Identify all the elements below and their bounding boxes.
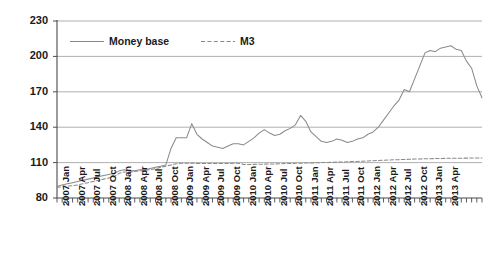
- x-axis-tick-label: 2007 Jul: [92, 169, 102, 207]
- y-axis-tick-label: 80: [12, 192, 48, 203]
- line-chart: 801101401702002302007 Jan2007 Apr2007 Ju…: [0, 0, 494, 268]
- x-axis-tick-label: 2011 Jul: [341, 169, 351, 206]
- x-axis-tick-label: 2009 Jan: [185, 166, 195, 206]
- x-axis-tick-label: 2010 Jan: [248, 166, 258, 206]
- y-axis-tick-label: 200: [12, 50, 48, 61]
- x-axis-tick-label: 2007 Oct: [108, 166, 118, 206]
- x-axis-tick-label: 2008 Apr: [139, 166, 149, 206]
- chart-legend: Money baseM3: [70, 36, 255, 47]
- x-axis-tick-label: 2013 Apr: [450, 166, 460, 206]
- x-axis-tick-label: 2010 Oct: [294, 166, 304, 206]
- y-axis-tick-label: 110: [12, 157, 48, 168]
- legend-swatch-solid: [70, 38, 104, 45]
- x-axis-tick-label: 2011 Oct: [356, 167, 366, 206]
- x-axis-tick-label: 2008 Jan: [123, 166, 133, 206]
- legend-label: Money base: [109, 36, 169, 47]
- x-axis-tick-label: 2010 Apr: [263, 166, 273, 206]
- x-axis-tick-label: 2009 Apr: [201, 166, 211, 206]
- x-axis-tick-label: 2010 Jul: [279, 169, 289, 207]
- legend-entry-m3: M3: [201, 36, 255, 47]
- y-axis-tick-label: 140: [12, 121, 48, 132]
- x-axis-tick-label: 2008 Jul: [154, 169, 164, 207]
- x-axis-tick-label: 2007 Jan: [61, 166, 71, 206]
- y-axis-tick-label: 230: [12, 15, 48, 26]
- y-axis-tick-label: 170: [12, 86, 48, 97]
- x-axis-tick-label: 2013 Jan: [434, 166, 444, 206]
- x-axis-tick-label: 2009 Jul: [216, 169, 226, 207]
- legend-entry-money-base: Money base: [70, 36, 169, 47]
- x-axis-tick-label: 2012 Oct: [419, 166, 429, 206]
- x-axis-tick-label: 2008 Oct: [170, 166, 180, 206]
- legend-swatch-dashed: [201, 38, 235, 45]
- x-axis-tick-label: 2012 Jan: [372, 166, 382, 206]
- x-axis-tick-label: 2007 Apr: [77, 166, 87, 206]
- x-axis-tick-label: 2012 Jul: [403, 169, 413, 207]
- x-axis-tick-label: 2011 Apr: [325, 167, 335, 206]
- x-axis-tick-label: 2011 Jan: [310, 166, 320, 206]
- legend-label: M3: [240, 36, 255, 47]
- x-axis-tick-label: 2012 Apr: [388, 166, 398, 206]
- x-axis-tick-label: 2009 Oct: [232, 166, 242, 206]
